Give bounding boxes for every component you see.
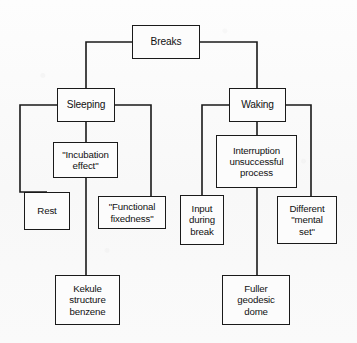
node-sleeping[interactable]: Sleeping xyxy=(57,88,115,122)
connector-sleeping-to-rest xyxy=(20,105,57,192)
connector-breaks-to-waking xyxy=(200,42,257,88)
node-kekule[interactable]: Kekule structure benzene xyxy=(55,275,120,325)
tree-diagram-canvas: BreaksSleepingWaking"Incubation effect"I… xyxy=(0,0,357,343)
node-waking[interactable]: Waking xyxy=(229,88,286,122)
node-functional[interactable]: "Functional fixedness" xyxy=(98,196,166,229)
node-incubation[interactable]: "Incubation effect" xyxy=(53,142,118,178)
connector-breaks-to-sleeping xyxy=(86,42,132,88)
node-interruption[interactable]: Interruption unsuccessful process xyxy=(216,135,297,188)
node-input[interactable]: Input during break xyxy=(180,195,224,245)
node-breaks[interactable]: Breaks xyxy=(132,25,200,59)
connector-sleeping-to-functional xyxy=(115,105,151,196)
node-different[interactable]: Different "mental set" xyxy=(277,196,337,244)
node-fuller[interactable]: Fuller geodesic dome xyxy=(222,275,290,325)
node-rest[interactable]: Rest xyxy=(24,192,70,230)
